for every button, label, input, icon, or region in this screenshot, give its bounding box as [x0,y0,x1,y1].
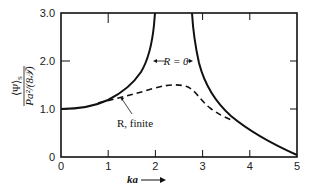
svg-text:⟨Ψ⟩S: ⟨Ψ⟩S [10,76,24,96]
y-tick-label: 1.0 [40,103,55,115]
arrow-right-icon [141,177,166,183]
y-tick-label: 2.0 [40,55,55,67]
x-tick-label: 3 [200,160,206,172]
x-tick-label: 5 [294,160,300,172]
x-tick-label: 0 [58,160,64,172]
y-label-denominator: Pa²/(8𝒯) [23,66,36,107]
x-axis-label: ka [127,173,139,185]
x-tick-label: 1 [105,160,111,172]
x-tick-label: 2 [152,160,158,172]
y-tick-label: 3.0 [40,7,55,19]
curve-r0-left [61,13,155,109]
curve-r0-right [192,13,297,155]
annotation-r0: R = 0 [153,55,193,67]
chart: 0 1 2 3 4 5 0 1.0 2.0 3.0 ka ⟨Ψ⟩S Pa²/(8… [0,0,310,187]
y-axis-label: ⟨Ψ⟩S Pa²/(8𝒯) [10,66,36,107]
annotation-r-finite-label: R, finite [117,117,153,129]
x-tick-label: 4 [247,160,253,172]
annotation-r0-label: R = 0 [162,55,189,67]
curve-r-finite [98,85,232,120]
y-label-numerator: ⟨Ψ⟩ [10,80,22,96]
y-tick-label: 0 [49,151,55,163]
annotation-r-finite: R, finite [117,97,153,129]
